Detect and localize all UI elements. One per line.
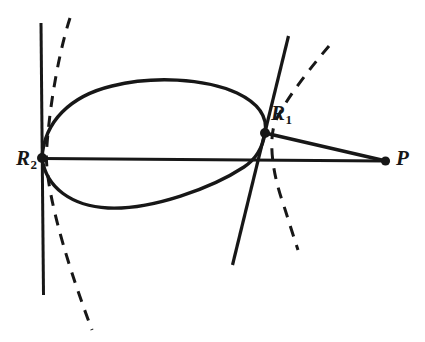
label-R1: R1 [271,103,292,126]
label-R1-base: R [271,101,285,125]
label-P-base: P [396,146,409,170]
dashed-right-curve [272,46,329,250]
segment-R1-to-P [265,133,386,161]
figure-root: R1 R2 P [0,0,425,342]
label-R2-subscript: 2 [31,157,38,172]
label-P: P [396,148,409,169]
label-R2-base: R [16,146,30,170]
point-P [381,156,390,165]
oval-upper-arc [42,80,266,158]
label-R1-subscript: 1 [286,112,293,127]
oval-lower-arc [42,133,265,208]
geometry-diagram [0,0,425,342]
point-R2 [37,153,47,163]
label-R2: R2 [16,148,37,171]
point-R1 [260,128,270,138]
segment-R2-to-P [42,159,386,162]
dashed-left-curve [46,18,92,330]
